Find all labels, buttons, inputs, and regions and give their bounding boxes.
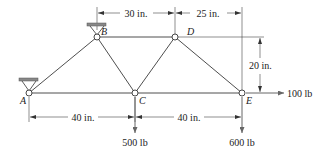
dimension-label: 40 in. (178, 112, 201, 123)
member-AB (29, 37, 97, 93)
dimension-label: 30 in. (125, 8, 148, 19)
node-D (172, 34, 178, 40)
node-label-E: E (245, 95, 252, 106)
load-E-horizontal: 100 lb (246, 88, 312, 99)
dimension-bottom-right: 40 in. (136, 112, 241, 123)
member-BC (97, 37, 135, 93)
member-DE (175, 37, 242, 93)
truss-nodes (26, 34, 245, 96)
node-E (239, 90, 245, 96)
node-label-B: B (101, 26, 107, 37)
member-CD (135, 37, 175, 93)
node-label-C: C (139, 95, 146, 106)
load-label: 100 lb (287, 88, 312, 99)
dimension-top-left: 30 in. (98, 8, 174, 19)
node-label-D: D (186, 26, 195, 37)
dimension-label: 40 in. (72, 112, 95, 123)
support-A (19, 78, 38, 91)
truss-diagram: 30 in. 25 in. 20 in. 40 in. 40 in. 500 l… (0, 0, 327, 155)
dimension-bottom-left: 40 in. (30, 112, 134, 123)
node-C (132, 90, 138, 96)
node-B (94, 34, 100, 40)
dimension-label: 20 in. (249, 60, 272, 71)
load-label: 600 lb (229, 137, 254, 148)
load-label: 500 lb (122, 137, 147, 148)
node-label-A: A (19, 95, 27, 106)
dimension-top-right: 25 in. (176, 8, 241, 19)
dimension-label: 25 in. (197, 8, 220, 19)
truss-members (29, 37, 242, 93)
dimension-height: 20 in. (249, 38, 272, 92)
node-A (26, 90, 32, 96)
